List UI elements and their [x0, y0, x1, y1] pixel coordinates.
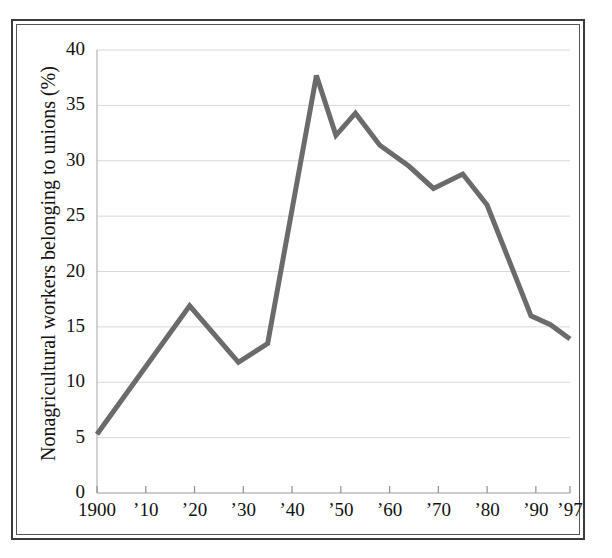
x-tick-label: ’97: [540, 499, 600, 521]
y-tick-label: 10: [45, 370, 85, 392]
y-tick-label: 15: [45, 315, 85, 337]
y-tick-label: 30: [45, 149, 85, 171]
plot-panel: Nonagricultural workers belonging to uni…: [0, 0, 612, 558]
y-tick-label: 40: [45, 38, 85, 60]
data-line-union-membership: [97, 75, 570, 434]
y-tick-label: 5: [45, 426, 85, 448]
y-tick-label: 20: [45, 260, 85, 282]
y-tick-label: 25: [45, 204, 85, 226]
line-chart-svg: [0, 0, 612, 558]
figure-root: Nonagricultural workers belonging to uni…: [0, 0, 612, 558]
y-tick-label: 35: [45, 93, 85, 115]
